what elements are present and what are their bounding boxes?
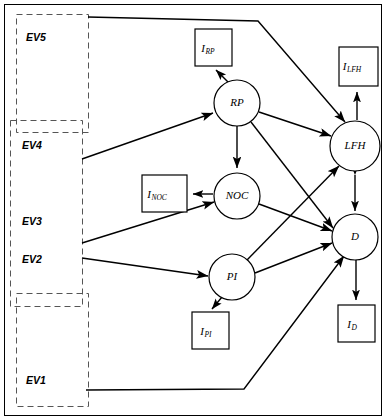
ev-box-ev1 bbox=[17, 294, 89, 407]
latent-label-pi: PI bbox=[226, 270, 239, 282]
ev-label-ev4: EV4 bbox=[22, 139, 42, 151]
exogenous-labels-group: EV5 EV4 EV3 EV2 EV1 bbox=[22, 31, 46, 386]
outer-frame bbox=[5, 5, 382, 416]
ev-label-ev3: EV3 bbox=[22, 215, 42, 227]
ev-label-ev1: EV1 bbox=[26, 374, 46, 386]
indicator-boxes-group: IRP INOC IPI ILFH ID bbox=[142, 29, 378, 349]
edge-pi-to-d bbox=[255, 243, 332, 273]
edge-noc-to-d bbox=[259, 204, 332, 231]
latent-label-noc: NOC bbox=[225, 189, 249, 201]
ev-label-ev5: EV5 bbox=[26, 31, 46, 43]
path-diagram-canvas: EV5 EV4 EV3 EV2 EV1 bbox=[0, 0, 386, 420]
latent-label-lfh: LFH bbox=[344, 139, 367, 151]
edge-rp-to-lfh bbox=[259, 112, 331, 136]
edge-rp-to-irp bbox=[216, 70, 228, 82]
edge-rp-to-d bbox=[251, 122, 333, 228]
edge-pi-to-ipi bbox=[212, 297, 222, 309]
edge-ev2-to-pi bbox=[82, 258, 208, 276]
ev-label-ev2: EV2 bbox=[22, 253, 42, 265]
exogenous-boxes-group bbox=[11, 15, 89, 407]
diagram-svg: EV5 EV4 EV3 EV2 EV1 bbox=[0, 0, 386, 420]
edge-ev4-to-rp bbox=[82, 113, 213, 159]
latent-label-rp: RP bbox=[229, 96, 244, 108]
latent-label-d: D bbox=[350, 230, 359, 242]
